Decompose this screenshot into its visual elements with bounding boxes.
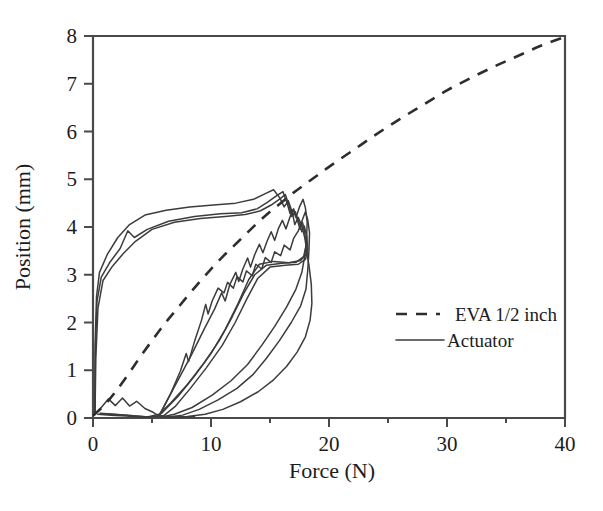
y-tick-label: 7: [67, 72, 78, 96]
y-tick-label: 3: [67, 263, 78, 287]
y-tick-label: 5: [67, 167, 78, 191]
legend-label-actuator: Actuator: [447, 330, 514, 351]
y-axis-tick-labels: 012345678: [67, 24, 78, 430]
figure-container: 010203040 012345678 Force (N) Position (…: [0, 0, 603, 511]
y-tick-label: 4: [67, 215, 78, 239]
x-tick-label: 30: [437, 432, 458, 456]
y-tick-label: 8: [67, 24, 78, 48]
x-tick-label: 10: [201, 432, 222, 456]
x-tick-label: 40: [555, 432, 576, 456]
legend-label-eva: EVA 1/2 inch: [455, 304, 558, 325]
x-tick-label: 0: [88, 432, 99, 456]
y-tick-label: 6: [67, 120, 78, 144]
position-vs-force-chart: 010203040 012345678 Force (N) Position (…: [0, 0, 603, 511]
y-tick-label: 1: [67, 358, 78, 382]
x-axis-title: Force (N): [289, 458, 375, 483]
y-tick-label: 2: [67, 311, 78, 335]
y-axis-title: Position (mm): [10, 164, 35, 291]
y-tick-label: 0: [67, 406, 78, 430]
x-tick-label: 20: [319, 432, 340, 456]
